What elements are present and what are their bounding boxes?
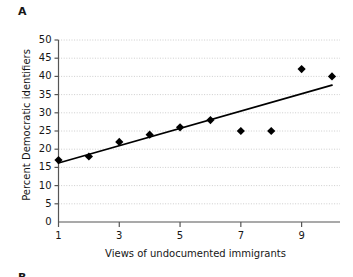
figure-panel-a: A Percent Democratic identifiers Views o…: [0, 0, 353, 277]
data-point-marker: [298, 65, 306, 73]
y-tick-label: 40: [30, 71, 52, 81]
y-tick-label: 20: [30, 144, 52, 154]
y-tick-label: 15: [30, 162, 52, 172]
panel-label-b-clipped: B: [18, 272, 26, 277]
x-tick-label: 7: [231, 231, 251, 241]
data-point-marker: [237, 127, 245, 135]
x-tick-label: 1: [49, 231, 69, 241]
y-tick-label: 45: [30, 53, 52, 63]
data-markers: [54, 65, 336, 164]
data-point-marker: [206, 116, 214, 124]
gridlines: [59, 40, 341, 204]
axis-ticks: [55, 40, 302, 227]
x-tick-label: 5: [170, 231, 190, 241]
x-tick-label: 9: [292, 231, 312, 241]
y-tick-label: 35: [30, 90, 52, 100]
regression-line: [59, 85, 333, 163]
y-tick-label: 5: [30, 199, 52, 209]
y-tick-label: 30: [30, 108, 52, 118]
y-tick-label: 10: [30, 181, 52, 191]
y-tick-label: 0: [30, 217, 52, 227]
y-tick-label: 25: [30, 126, 52, 136]
data-point-marker: [176, 123, 184, 131]
y-tick-label: 50: [30, 35, 52, 45]
x-tick-label: 3: [109, 231, 129, 241]
data-point-marker: [267, 127, 275, 135]
data-point-marker: [328, 72, 336, 80]
